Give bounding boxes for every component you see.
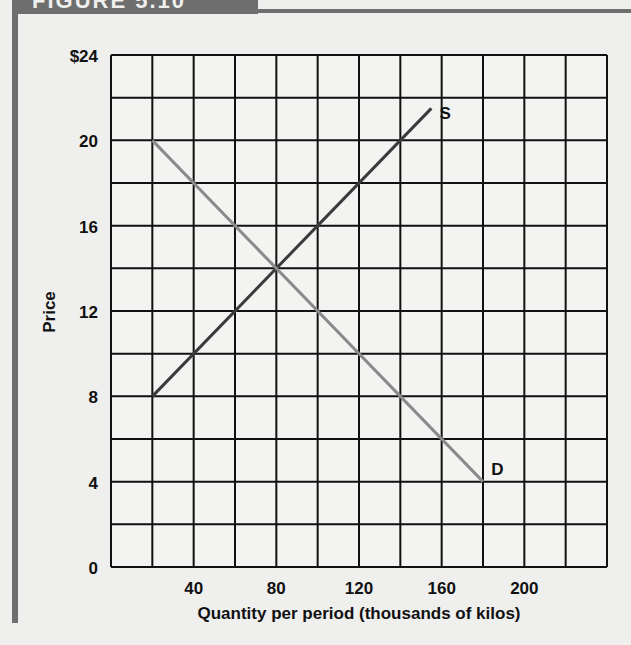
x-tick-label: 80 <box>267 579 286 598</box>
x-tick-label: 200 <box>510 579 538 598</box>
supply-demand-chart: SD048121620$244080120160200Quantity per … <box>0 0 631 645</box>
x-axis-label: Quantity per period (thousands of kilos) <box>197 604 520 623</box>
y-tick-label: $24 <box>70 47 99 66</box>
x-tick-label: 40 <box>184 579 203 598</box>
curve-label-d: D <box>491 460 503 479</box>
y-tick-label: 20 <box>79 132 98 151</box>
y-tick-label: 0 <box>89 559 98 578</box>
y-axis-label: Price <box>40 291 59 333</box>
y-tick-label: 4 <box>89 474 99 493</box>
x-tick-label: 120 <box>345 579 373 598</box>
x-tick-label: 160 <box>427 579 455 598</box>
y-tick-label: 16 <box>79 218 98 237</box>
y-tick-label: 12 <box>79 303 98 322</box>
y-tick-label: 8 <box>89 388 98 407</box>
curve-label-s: S <box>440 104 451 123</box>
